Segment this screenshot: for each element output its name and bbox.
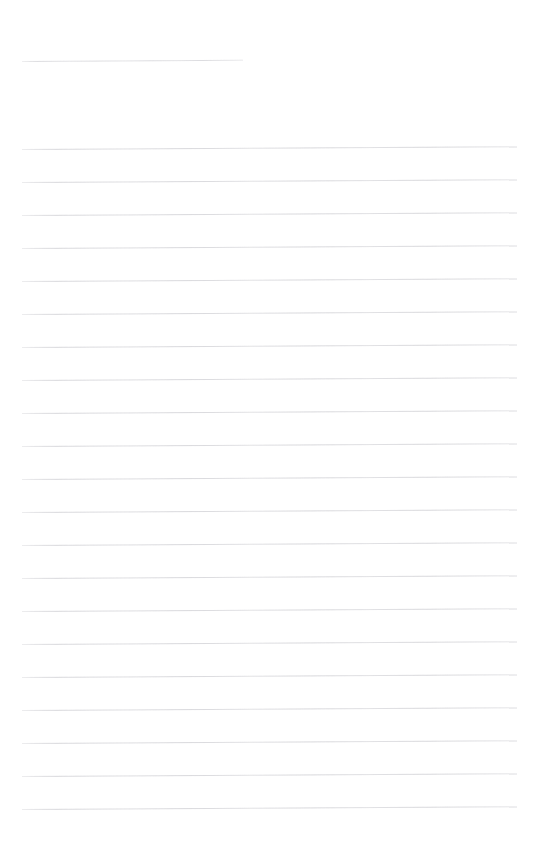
ruled-line bbox=[22, 443, 517, 447]
ruled-line bbox=[22, 773, 517, 777]
ruled-line bbox=[22, 278, 517, 282]
ruled-line bbox=[22, 641, 517, 645]
ruled-line bbox=[22, 344, 517, 348]
ruled-line bbox=[22, 806, 517, 810]
ruled-line bbox=[22, 212, 517, 216]
ruled-line bbox=[22, 707, 517, 711]
ruled-line bbox=[22, 311, 517, 315]
ruled-line bbox=[22, 509, 517, 513]
ruled-line bbox=[22, 608, 517, 612]
ruled-line bbox=[22, 377, 517, 381]
ruled-line bbox=[22, 146, 517, 150]
ruled-line bbox=[22, 60, 243, 62]
notebook-page bbox=[0, 0, 538, 851]
ruled-line bbox=[22, 575, 517, 579]
ruled-line bbox=[22, 410, 517, 414]
ruled-line bbox=[22, 542, 517, 546]
ruled-line bbox=[22, 476, 517, 480]
ruled-line bbox=[22, 179, 517, 183]
ruled-line bbox=[22, 740, 517, 744]
ruled-line bbox=[22, 245, 517, 249]
ruled-line bbox=[22, 674, 517, 678]
